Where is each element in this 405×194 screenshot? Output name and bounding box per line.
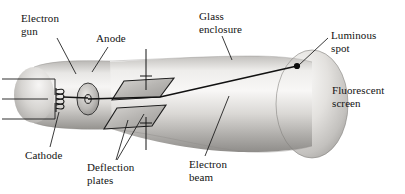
- label-cathode: Cathode: [25, 149, 62, 162]
- label-anode: Anode: [96, 32, 126, 45]
- label-glass-enclosure: Glass enclosure: [199, 10, 242, 35]
- label-electron-beam: Electron beam: [189, 158, 227, 183]
- label-fluorescent-screen: Fluorescent screen: [332, 84, 384, 109]
- label-luminous-spot: Luminous spot: [331, 29, 376, 54]
- label-deflection-plates: Deflection plates: [87, 161, 134, 186]
- tube-flare: [108, 56, 312, 152]
- neck-dome-end: [14, 67, 54, 123]
- crt-diagram-figure: Electron gun Anode Glass enclosure Lumin…: [0, 0, 405, 194]
- luminous-spot-dot: [294, 63, 300, 69]
- label-electron-gun: Electron gun: [21, 12, 59, 37]
- beam-segment-gun: [63, 97, 88, 98]
